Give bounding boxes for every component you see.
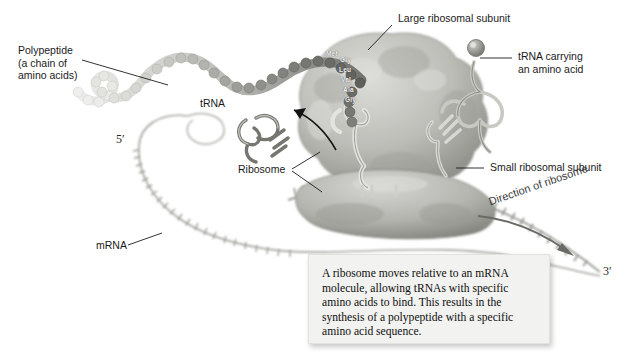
label-three-prime: 3′	[603, 264, 612, 279]
label-trna-carrying-amino-acid: tRNA carrying an amino acid	[518, 50, 583, 75]
figure-canvas: Polypeptide (a chain of amino acids) tRN…	[0, 0, 639, 360]
label-trna: tRNA	[200, 97, 225, 110]
label-ribosome: Ribosome	[238, 163, 285, 176]
small-ribosomal-subunit	[296, 170, 495, 239]
amino-acid-tag-leu: Leu	[339, 66, 351, 73]
amino-acid-tag-ala: Ala	[343, 86, 354, 93]
leader-mrna	[128, 233, 162, 245]
amino-acid-tag-gly-2: Gly	[345, 96, 356, 103]
label-five-prime: 5′	[116, 132, 125, 147]
amino-acid-tag-met: Met	[326, 50, 338, 57]
amino-acid-tag-gly-1: Gly	[340, 56, 351, 63]
caption-box: A ribosome moves relative to an mRNA mol…	[308, 254, 550, 344]
trna-departing	[239, 116, 288, 162]
leader-ribosome-upper	[292, 152, 320, 169]
label-large-ribosomal-subunit: Large ribosomal subunit	[398, 12, 510, 25]
amino-acid-tag-val: Val	[341, 76, 351, 83]
caption-text: A ribosome moves relative to an mRNA mol…	[309, 255, 549, 340]
label-mrna: mRNA	[96, 239, 127, 252]
amino-acid-sphere	[468, 40, 485, 57]
label-polypeptide: Polypeptide (a chain of amino acids)	[18, 44, 78, 82]
